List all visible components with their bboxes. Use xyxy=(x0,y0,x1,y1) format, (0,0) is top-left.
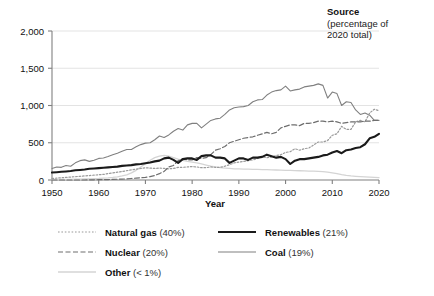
x-axis-tick-label: 1970 xyxy=(135,187,156,198)
legend-label-other: Other (< 1%) xyxy=(105,267,161,278)
legend-item-coal[interactable]: Coal (19%) xyxy=(217,247,377,258)
legend-item-nuclear[interactable]: Nuclear (20%) xyxy=(57,247,217,258)
series-line-coal xyxy=(52,84,379,169)
source-heading: Source xyxy=(327,6,432,18)
chart-legend: Natural gas (40%)Renewables (21%)Nuclear… xyxy=(57,222,387,282)
legend-swatch-other xyxy=(57,267,97,277)
legend-item-renewables[interactable]: Renewables (21%) xyxy=(217,227,377,238)
data-series-group xyxy=(52,84,379,180)
gridlines xyxy=(52,31,379,143)
legend-swatch-nuclear xyxy=(57,247,97,257)
x-axis-tick-label: 2020 xyxy=(368,187,389,198)
legend-item-other[interactable]: Other (< 1%) xyxy=(57,267,217,278)
legend-label-coal: Coal (19%) xyxy=(265,247,314,258)
legend-label-natural-gas: Natural gas (40%) xyxy=(105,227,185,238)
y-axis-tick-label: 0 xyxy=(39,175,44,186)
x-axis-tick-label: 2010 xyxy=(322,187,343,198)
y-axis-ticks: 05001,0001,5002,000 xyxy=(20,26,52,186)
x-axis-tick-label: 1960 xyxy=(88,187,109,198)
x-axis-tick-label: 1950 xyxy=(41,187,62,198)
legend-swatch-coal xyxy=(217,247,257,257)
legend-label-renewables: Renewables (21%) xyxy=(265,227,348,238)
source-title-block: Source (percentage of 2020 total) xyxy=(327,6,432,41)
x-axis-tick-label: 2000 xyxy=(275,187,296,198)
y-axis-tick-label: 2,000 xyxy=(20,26,44,37)
x-axis-tick-label: 1990 xyxy=(228,187,249,198)
legend-item-natural-gas[interactable]: Natural gas (40%) xyxy=(57,227,217,238)
chart-figure: 05001,0001,5002,000 19501960197019801990… xyxy=(0,0,434,296)
legend-label-nuclear: Nuclear (20%) xyxy=(105,247,168,258)
x-axis-title: Year xyxy=(205,198,225,209)
legend-row: Other (< 1%) xyxy=(57,262,387,282)
y-axis-tick-label: 1,500 xyxy=(20,63,44,74)
source-subtitle-line1: (percentage of xyxy=(327,18,432,30)
legend-row: Natural gas (40%)Renewables (21%) xyxy=(57,222,387,242)
source-subtitle-line2: 2020 total) xyxy=(327,29,432,41)
series-line-nuclear xyxy=(52,120,379,180)
legend-swatch-natural-gas xyxy=(57,227,97,237)
x-axis-ticks: 19501960197019801990200020102020 xyxy=(41,180,389,198)
x-axis-tick-label: 1980 xyxy=(182,187,203,198)
legend-swatch-renewables xyxy=(217,227,257,237)
y-axis-tick-label: 1,000 xyxy=(20,100,44,111)
legend-row: Nuclear (20%)Coal (19%) xyxy=(57,242,387,262)
y-axis-tick-label: 500 xyxy=(28,137,44,148)
